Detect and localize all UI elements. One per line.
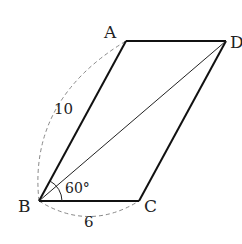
diagonal-bd (39, 41, 226, 201)
length-label-bc: 6 (84, 213, 94, 231)
parallelogram-diagram: A D B C 10 6 60° (0, 0, 242, 244)
vertex-label-c: C (144, 196, 157, 216)
side-dc (139, 41, 226, 201)
vertex-label-d: D (230, 32, 242, 52)
length-label-ab: 10 (54, 100, 73, 118)
vertex-label-a: A (103, 22, 117, 42)
angle-label-b: 60° (65, 180, 90, 196)
vertex-label-b: B (18, 196, 31, 216)
angle-arc-b (50, 181, 62, 201)
side-ab (39, 41, 126, 201)
